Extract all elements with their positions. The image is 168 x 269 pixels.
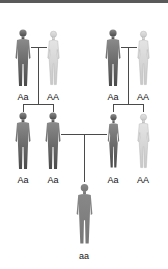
genotype-label: aa <box>72 251 96 261</box>
gen1-female-right-icon <box>134 28 153 88</box>
genotype-label: Aa <box>41 175 65 185</box>
gen2-female-2-icon <box>134 110 153 172</box>
gen2-male-2-icon <box>43 110 63 172</box>
marriage-line <box>31 47 47 48</box>
genotype-label: Aa <box>101 175 125 185</box>
gen3-male-icon <box>74 182 95 246</box>
top-bar <box>0 0 168 3</box>
descent-line <box>38 47 39 104</box>
descent-line <box>128 47 129 104</box>
gen1-female-left-icon <box>44 28 63 88</box>
genotype-label: Aa <box>101 92 125 102</box>
gen1-male-left-icon <box>13 27 33 89</box>
descent-line <box>84 134 85 182</box>
genotype-label: Aa <box>11 175 35 185</box>
genotype-label: Aa <box>11 92 35 102</box>
sibship-line <box>23 104 54 105</box>
gen2-female-1-icon <box>104 110 123 172</box>
genotype-label: AA <box>131 92 155 102</box>
marriage-line <box>121 47 137 48</box>
gen1-male-right-icon <box>103 27 123 89</box>
gen2-male-1-icon <box>13 110 33 172</box>
genotype-label: AA <box>41 92 65 102</box>
sibship-line <box>113 104 144 105</box>
genotype-label: AA <box>131 175 155 185</box>
